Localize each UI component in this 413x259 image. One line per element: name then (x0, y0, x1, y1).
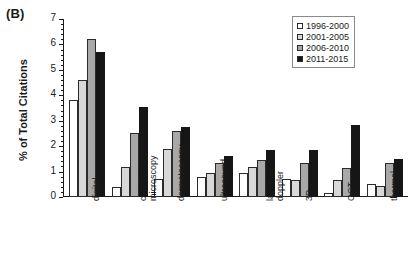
bar (333, 180, 342, 197)
x-tick-label: 3D (304, 189, 314, 201)
legend: 1996-20002001-20052006-20102011-2015 (292, 16, 355, 68)
bar (206, 173, 215, 197)
legend-item: 2006-2010 (297, 42, 349, 53)
x-tick-label: ultrasound (219, 159, 229, 201)
bar (78, 80, 87, 197)
bar (291, 180, 300, 197)
bar (367, 184, 376, 197)
bar (112, 187, 121, 197)
y-tick-mark (59, 197, 63, 198)
bar (163, 149, 172, 197)
x-tick-label: confocalmicroscopy (138, 155, 158, 201)
legend-item: 2001-2005 (297, 31, 349, 42)
bar (324, 193, 333, 197)
y-tick-label: 6 (50, 37, 56, 48)
plot-area (63, 19, 407, 197)
bar (69, 100, 78, 197)
legend-item: 1996-2000 (297, 20, 349, 31)
x-tick-label: dermatoscopy (176, 144, 186, 201)
legend-label: 2006-2010 (306, 43, 349, 53)
x-tick-label: thermal (389, 171, 399, 201)
bar (197, 177, 206, 197)
figure-panel-b: (B) % of Total Citations 01234567 digita… (0, 0, 413, 259)
y-tick-label: 4 (50, 88, 56, 99)
bar (239, 173, 248, 197)
bar-group (69, 19, 105, 197)
x-tick-label: OCT (346, 182, 356, 201)
panel-label: (B) (6, 6, 25, 21)
bar (87, 39, 96, 197)
x-tick-label-line: doppler (275, 171, 285, 201)
legend-swatch (297, 34, 303, 40)
y-tick-label: 2 (50, 139, 56, 150)
legend-swatch (297, 56, 303, 62)
legend-label: 2011-2015 (306, 54, 348, 64)
x-tick-label-line: confocal (138, 155, 148, 201)
y-tick-label: 0 (50, 190, 56, 201)
legend-item: 2011-2015 (297, 53, 349, 64)
y-axis-title: % of Total Citations (17, 35, 29, 185)
legend-swatch (297, 23, 303, 29)
bar (121, 167, 130, 198)
legend-label: 1996-2000 (306, 21, 349, 31)
y-tick-label: 5 (50, 63, 56, 74)
x-tick-label: laserdoppler (265, 171, 285, 201)
x-tick-label-line: microscopy (148, 155, 158, 201)
bar (376, 186, 385, 197)
y-tick-label: 3 (50, 114, 56, 125)
legend-swatch (297, 45, 303, 51)
x-tick-label: digital (91, 177, 101, 201)
bar (248, 167, 257, 198)
y-tick-label: 1 (50, 165, 56, 176)
legend-label: 2001-2005 (306, 32, 349, 42)
x-tick-label-line: laser (265, 171, 275, 201)
y-tick-label: 7 (50, 12, 56, 23)
bar (96, 52, 105, 197)
